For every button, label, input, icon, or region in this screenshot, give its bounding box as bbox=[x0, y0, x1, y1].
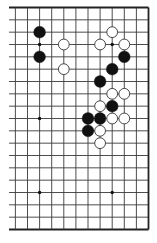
white-stone bbox=[95, 138, 106, 149]
white-stone bbox=[95, 101, 106, 112]
white-stone bbox=[119, 39, 130, 50]
black-stone bbox=[106, 100, 118, 112]
black-stone bbox=[94, 113, 106, 125]
go-board bbox=[0, 0, 157, 243]
white-stone bbox=[119, 88, 130, 99]
star-point bbox=[38, 191, 41, 194]
white-stone bbox=[119, 113, 130, 124]
white-stone bbox=[58, 39, 69, 50]
star-point bbox=[38, 117, 41, 120]
white-stone bbox=[107, 113, 118, 124]
black-stone bbox=[106, 63, 118, 75]
black-stone bbox=[82, 113, 94, 125]
star-point bbox=[111, 43, 114, 46]
white-stone bbox=[107, 27, 118, 38]
black-stone bbox=[34, 51, 46, 63]
black-stone bbox=[82, 125, 94, 137]
white-stone bbox=[58, 64, 69, 75]
black-stone bbox=[94, 76, 106, 88]
star-point bbox=[38, 43, 41, 46]
white-stone bbox=[107, 88, 118, 99]
black-stone bbox=[118, 51, 130, 63]
white-stone bbox=[95, 125, 106, 136]
star-point bbox=[111, 191, 114, 194]
black-stone bbox=[34, 26, 46, 38]
white-stone bbox=[95, 39, 106, 50]
